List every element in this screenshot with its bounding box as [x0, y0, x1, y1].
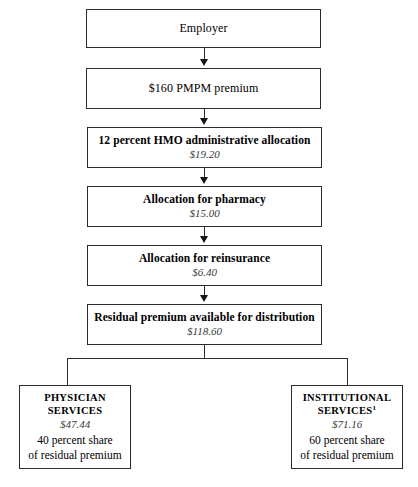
leaf-share-line2: of residual premium: [28, 448, 121, 462]
flow-node-title: Residual premium available for distribut…: [94, 311, 314, 325]
connector-arrowhead-2: [200, 118, 208, 125]
flow-node-residual-premium: Residual premium available for distribut…: [87, 304, 322, 345]
flow-node-amount: $15.00: [189, 207, 219, 220]
leaf-name-line2: SERVICES1: [318, 404, 376, 417]
connector-arrowhead-5: [200, 295, 208, 302]
split-drop-line-left: [67, 358, 68, 385]
flow-node-title: Employer: [179, 21, 227, 35]
flow-node-institutional-services: INSTITUTIONAL SERVICES1 $71.16 60 percen…: [291, 385, 403, 469]
leaf-amount: $71.16: [332, 418, 362, 432]
leaf-amount: $47.44: [60, 418, 90, 432]
flow-node-reinsurance-allocation: Allocation for reinsurance $6.40: [87, 245, 322, 286]
leaf-name-text: SERVICES: [48, 405, 103, 416]
connector-arrowhead-1: [200, 59, 208, 66]
footnote-marker: 1: [372, 404, 376, 412]
leaf-share-line2: of residual premium: [300, 448, 393, 462]
flow-node-admin-allocation: 12 percent HMO administrative allocation…: [87, 127, 322, 168]
flow-node-physician-services: PHYSICIAN SERVICES $47.44 40 percent sha…: [19, 385, 131, 469]
flow-node-amount: $118.60: [187, 325, 222, 338]
flow-node-amount: $19.20: [189, 148, 219, 161]
split-drop-line-right: [347, 358, 348, 385]
connector-arrowhead-3: [200, 177, 208, 184]
flow-node-title: 12 percent HMO administrative allocation: [98, 134, 310, 148]
split-stem-line: [204, 345, 205, 359]
leaf-name-line1: INSTITUTIONAL: [303, 391, 392, 404]
flow-node-title: $160 PMPM premium: [149, 81, 259, 95]
flow-node-amount: $6.40: [192, 266, 217, 279]
flowchart-canvas: Employer $160 PMPM premium 12 percent HM…: [0, 0, 418, 487]
leaf-name-line2: SERVICES: [48, 404, 103, 417]
leaf-share-line1: 40 percent share: [37, 433, 112, 447]
flow-node-title: Allocation for reinsurance: [139, 252, 270, 266]
leaf-share-line1: 60 percent share: [309, 433, 384, 447]
flow-node-title: Allocation for pharmacy: [143, 193, 266, 207]
leaf-name-line1: PHYSICIAN: [44, 391, 106, 404]
leaf-name-text: SERVICES: [318, 405, 373, 416]
split-horizontal-bar: [67, 358, 348, 359]
flow-node-pharmacy-allocation: Allocation for pharmacy $15.00: [87, 186, 322, 227]
connector-arrowhead-4: [200, 236, 208, 243]
flow-node-employer: Employer: [86, 9, 321, 48]
flow-node-premium: $160 PMPM premium: [86, 68, 321, 109]
